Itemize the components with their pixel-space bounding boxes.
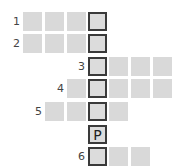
cell-letter (67, 34, 86, 53)
clue-number-6: 6 (75, 150, 85, 163)
answer-cell[interactable] (45, 12, 64, 31)
cell-letter (90, 59, 105, 74)
keyword-cell[interactable] (88, 12, 107, 31)
answer-cell[interactable] (23, 34, 42, 53)
clue-number-2: 2 (10, 37, 20, 50)
clue-number-5: 5 (32, 105, 42, 118)
cell-letter (90, 104, 105, 119)
cell-letter (131, 147, 150, 166)
cell-letter (67, 12, 86, 31)
cell-letter (45, 12, 64, 31)
cell-letter (67, 79, 86, 98)
cell-letter (90, 149, 105, 164)
cell-letter: P (90, 127, 105, 142)
clue-number-4: 4 (54, 82, 64, 95)
cell-letter (153, 79, 172, 98)
cell-letter (45, 102, 64, 121)
cell-letter (23, 12, 42, 31)
answer-cell[interactable] (109, 79, 128, 98)
cell-letter (109, 102, 128, 121)
clue-number-1: 1 (10, 15, 20, 28)
answer-cell[interactable] (153, 79, 172, 98)
answer-cell[interactable] (109, 57, 128, 76)
keyword-cell[interactable]: P (88, 125, 107, 144)
cell-letter (109, 79, 128, 98)
cell-letter (90, 81, 105, 96)
cell-letter (109, 147, 128, 166)
answer-cell[interactable] (153, 57, 172, 76)
answer-cell[interactable] (67, 34, 86, 53)
answer-cell[interactable] (45, 34, 64, 53)
keyword-cell[interactable] (88, 102, 107, 121)
clue-number-3: 3 (75, 60, 85, 73)
answer-cell[interactable] (109, 147, 128, 166)
cell-letter (90, 36, 105, 51)
answer-cell[interactable] (131, 147, 150, 166)
answer-cell[interactable] (23, 12, 42, 31)
answer-cell[interactable] (67, 79, 86, 98)
answer-cell[interactable] (45, 102, 64, 121)
cell-letter (67, 102, 86, 121)
cell-letter (131, 79, 150, 98)
keyword-cell[interactable] (88, 57, 107, 76)
answer-cell[interactable] (109, 102, 128, 121)
answer-cell[interactable] (67, 102, 86, 121)
cell-letter (153, 57, 172, 76)
answer-cell[interactable] (67, 12, 86, 31)
keyword-cell[interactable] (88, 147, 107, 166)
answer-cell[interactable] (131, 79, 150, 98)
keyword-cell[interactable] (88, 34, 107, 53)
answer-cell[interactable] (131, 57, 150, 76)
cell-letter (131, 57, 150, 76)
cell-letter (23, 34, 42, 53)
keyword-cell[interactable] (88, 79, 107, 98)
cell-letter (109, 57, 128, 76)
cell-letter (90, 14, 105, 29)
cell-letter (45, 34, 64, 53)
